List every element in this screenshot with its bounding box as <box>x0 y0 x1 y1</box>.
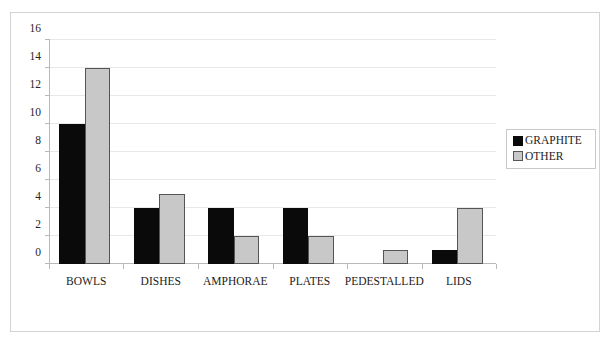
plot-area: 0246810121416 BOWLSDISHESAMPHORAEPLATESP… <box>49 40 496 264</box>
x-tick-mark <box>49 264 50 269</box>
bar-lids-graphite[interactable] <box>432 250 457 264</box>
legend-label: OTHER <box>525 151 563 163</box>
y-axis-tick-label: 12 <box>30 79 42 91</box>
x-tick-mark <box>273 264 274 269</box>
y-axis-tick-label: 16 <box>30 23 42 35</box>
bar-amphorae-other[interactable] <box>234 236 259 264</box>
y-axis-tick-label: 4 <box>35 191 41 203</box>
x-tick-mark <box>422 264 423 269</box>
bar-group-bowls <box>49 40 123 264</box>
bar-dishes-other[interactable] <box>159 194 184 264</box>
x-axis-category-label: BOWLS <box>66 276 106 288</box>
legend-item-graphite[interactable]: GRAPHITE <box>513 135 589 147</box>
y-axis-tick-label: 14 <box>30 51 42 63</box>
bar-group-amphorae <box>198 40 272 264</box>
graphite-swatch <box>513 136 523 146</box>
bar-group-plates <box>273 40 347 264</box>
bar-amphorae-graphite[interactable] <box>208 208 233 264</box>
x-axis-category-label: PEDESTALLED <box>345 276 424 288</box>
bar-lids-other[interactable] <box>457 208 482 264</box>
other-swatch <box>513 151 523 161</box>
bar-bowls-graphite[interactable] <box>59 124 84 264</box>
y-axis-tick-label: 8 <box>35 135 41 147</box>
x-axis-category-label: AMPHORAE <box>203 276 268 288</box>
y-axis-tick-label: 10 <box>30 107 42 119</box>
bar-group-dishes <box>123 40 197 264</box>
legend-label: GRAPHITE <box>525 135 582 147</box>
y-axis-tick-label: 6 <box>35 163 41 175</box>
x-axis-category-label: LIDS <box>446 276 472 288</box>
x-tick-mark <box>123 264 124 269</box>
bar-plates-graphite[interactable] <box>283 208 308 264</box>
x-tick-mark <box>496 264 497 269</box>
x-axis-category-label: PLATES <box>289 276 330 288</box>
x-tick-mark <box>347 264 348 269</box>
x-tick-mark <box>198 264 199 269</box>
chart-figure: 0246810121416 BOWLSDISHESAMPHORAEPLATESP… <box>10 12 600 332</box>
chart-legend: GRAPHITEOTHER <box>506 129 596 169</box>
bar-dishes-graphite[interactable] <box>134 208 159 264</box>
y-axis-tick-label: 2 <box>35 219 41 231</box>
legend-item-other[interactable]: OTHER <box>513 151 589 163</box>
bar-group-pedestalled <box>347 40 421 264</box>
x-axis-category-label: DISHES <box>141 276 181 288</box>
bar-bowls-other[interactable] <box>85 68 110 264</box>
bar-pedestalled-other[interactable] <box>383 250 408 264</box>
bar-group-lids <box>422 40 496 264</box>
bar-plates-other[interactable] <box>308 236 333 264</box>
y-axis-tick-label: 0 <box>35 247 41 259</box>
